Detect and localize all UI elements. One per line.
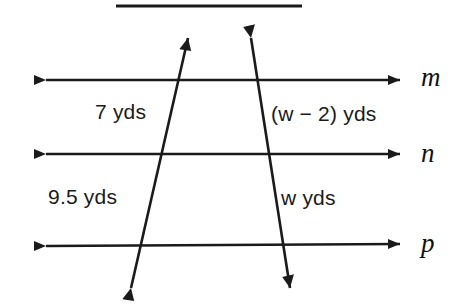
transversal-left bbox=[131, 38, 188, 288]
transversal-right bbox=[251, 38, 290, 288]
line-label-m: m bbox=[421, 62, 441, 93]
segment-label-right-upper: (w − 2) yds bbox=[271, 102, 376, 126]
segment-label-left-upper: 7 yds bbox=[95, 100, 146, 124]
diagram-canvas bbox=[0, 0, 464, 304]
geometry-diagram: 7 yds (w − 2) yds 9.5 yds w yds m n p bbox=[0, 0, 464, 304]
segment-label-left-lower: 9.5 yds bbox=[48, 185, 117, 209]
segment-label-right-lower: w yds bbox=[281, 186, 336, 210]
line-label-n: n bbox=[421, 138, 435, 169]
parallel-line-p bbox=[46, 244, 400, 246]
line-label-p: p bbox=[421, 228, 435, 259]
